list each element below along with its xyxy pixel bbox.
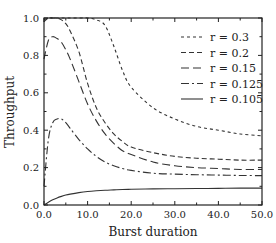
series-line — [44, 188, 262, 205]
series-line — [44, 119, 262, 187]
y-tick-label: 0.2 — [23, 162, 39, 173]
legend-label: r = 0.2 — [210, 47, 249, 60]
x-tick-label: 30.0 — [164, 209, 186, 220]
legend-label: r = 0.15 — [210, 62, 256, 75]
y-axis-label: Throughput — [3, 76, 17, 148]
y-tick-label: 0.4 — [23, 125, 39, 136]
x-tick-label: 40.0 — [207, 209, 229, 220]
legend-label: r = 0.125 — [210, 78, 263, 91]
legend-label: r = 0.3 — [210, 31, 249, 44]
y-tick-labels: 0.00.20.40.60.81.0 — [23, 13, 39, 211]
x-tick-label: 0.0 — [36, 209, 52, 220]
legend: r = 0.3r = 0.2r = 0.15r = 0.125r = 0.105 — [181, 31, 263, 106]
x-tick-label: 10.0 — [76, 209, 98, 220]
y-tick-label: 0.0 — [23, 200, 39, 211]
x-tick-labels: 0.010.020.030.040.050.0 — [36, 209, 273, 220]
x-axis-label: Burst duration — [109, 225, 198, 239]
y-tick-label: 0.6 — [23, 87, 39, 98]
legend-label: r = 0.105 — [210, 93, 263, 106]
y-tick-label: 1.0 — [23, 13, 39, 24]
x-tick-label: 20.0 — [120, 209, 142, 220]
line-chart: 0.010.020.030.040.050.0 0.00.20.40.60.81… — [0, 0, 276, 243]
x-tick-label: 50.0 — [251, 209, 273, 220]
y-tick-label: 0.8 — [23, 50, 39, 61]
